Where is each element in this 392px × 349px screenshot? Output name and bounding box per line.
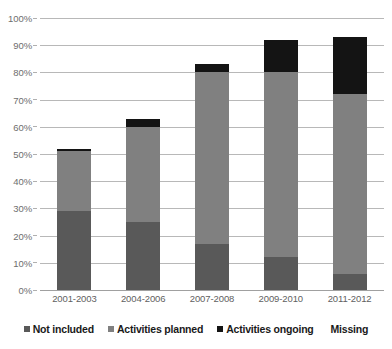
bar-segment-activities-planned[interactable] <box>264 72 298 257</box>
plot-area <box>40 18 384 290</box>
bar-segment-activities-ongoing[interactable] <box>57 149 91 152</box>
y-axis: 100%90%80%70%60%50%40%30%20%10%0% <box>0 18 36 290</box>
bar-segment-activities-planned[interactable] <box>57 151 91 211</box>
bar-segment-missing[interactable] <box>195 18 229 64</box>
y-axis-tick-mark <box>33 181 37 182</box>
bar-segment-activities-planned[interactable] <box>126 127 160 222</box>
legend-item-label: Activities planned <box>117 323 203 335</box>
bar-segment-not-included[interactable] <box>57 211 91 290</box>
bar-segment-missing[interactable] <box>333 18 367 37</box>
bar-segment-activities-planned[interactable] <box>333 94 367 274</box>
x-axis-tick-label: 2001-2003 <box>40 293 109 304</box>
bar-segment-activities-ongoing[interactable] <box>264 40 298 73</box>
legend-item-label: Not included <box>33 323 94 335</box>
y-axis-tick-mark <box>33 262 37 263</box>
x-axis-tick-label: 2007-2008 <box>178 293 247 304</box>
bar-stack[interactable] <box>126 18 160 290</box>
legend-swatch-icon <box>108 326 114 332</box>
bar-stack[interactable] <box>195 18 229 290</box>
bar-segment-not-included[interactable] <box>195 244 229 290</box>
legend-swatch-icon <box>24 326 30 332</box>
bar-segment-activities-ongoing[interactable] <box>126 119 160 127</box>
y-axis-tick-mark <box>33 126 37 127</box>
bar-segment-missing[interactable] <box>57 18 91 149</box>
y-axis-tick-mark <box>33 72 37 73</box>
bar-group[interactable] <box>109 18 178 290</box>
y-axis-tick-mark <box>33 154 37 155</box>
y-axis-tick-label: 10% <box>13 257 32 268</box>
bar-segment-activities-ongoing[interactable] <box>195 64 229 72</box>
x-axis: 2001-20032004-20062007-20082009-20102011… <box>40 293 384 309</box>
x-axis-tick-label: 2004-2006 <box>109 293 178 304</box>
bar-group[interactable] <box>246 18 315 290</box>
legend-swatch-icon <box>217 326 223 332</box>
y-axis-tick-mark <box>33 290 37 291</box>
bar-stack[interactable] <box>264 18 298 290</box>
stacked-bar-chart: 100%90%80%70%60%50%40%30%20%10%0% 2001-2… <box>0 0 392 349</box>
bar-segment-not-included[interactable] <box>126 222 160 290</box>
y-axis-tick-label: 90% <box>13 40 32 51</box>
y-axis-tick-mark <box>33 45 37 46</box>
bar-segment-missing[interactable] <box>264 18 298 40</box>
bar-stack[interactable] <box>333 18 367 290</box>
x-axis-tick-label: 2011-2012 <box>315 293 384 304</box>
legend-item[interactable]: Activities planned <box>108 323 203 335</box>
y-axis-tick-label: 80% <box>13 67 32 78</box>
legend-item[interactable]: Not included <box>24 323 94 335</box>
x-axis-tick-label: 2009-2010 <box>246 293 315 304</box>
y-axis-tick-label: 70% <box>13 94 32 105</box>
bar-segment-not-included[interactable] <box>333 274 367 290</box>
legend-item[interactable]: Missing <box>328 323 369 335</box>
y-axis-tick-label: 40% <box>13 176 32 187</box>
y-axis-tick-label: 100% <box>8 13 32 24</box>
bar-stack[interactable] <box>57 18 91 290</box>
bar-group[interactable] <box>178 18 247 290</box>
y-axis-tick-label: 30% <box>13 203 32 214</box>
bar-segment-not-included[interactable] <box>264 257 298 290</box>
bar-group[interactable] <box>315 18 384 290</box>
legend-item-label: Missing <box>331 323 369 335</box>
bar-segment-missing[interactable] <box>126 18 160 119</box>
y-axis-tick-label: 60% <box>13 121 32 132</box>
bar-segment-activities-ongoing[interactable] <box>333 37 367 94</box>
bar-group[interactable] <box>40 18 109 290</box>
gridline <box>40 290 384 291</box>
y-axis-tick-mark <box>33 235 37 236</box>
y-axis-tick-mark <box>33 208 37 209</box>
bar-segment-activities-planned[interactable] <box>195 72 229 243</box>
y-axis-tick-mark <box>33 18 37 19</box>
legend-item-label: Activities ongoing <box>226 323 313 335</box>
y-axis-tick-label: 0% <box>18 285 32 296</box>
y-axis-tick-label: 50% <box>13 149 32 160</box>
legend-item[interactable]: Activities ongoing <box>217 323 313 335</box>
y-axis-tick-mark <box>33 99 37 100</box>
chart-legend: Not includedActivities plannedActivities… <box>0 320 392 338</box>
y-axis-tick-label: 20% <box>13 230 32 241</box>
